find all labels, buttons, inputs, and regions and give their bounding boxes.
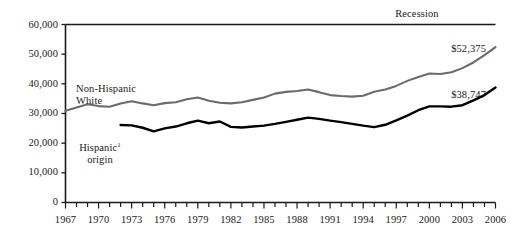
footnote-marker-1: 1 (117, 141, 121, 149)
recession-label: Recession (372, 8, 462, 19)
end-value-label-hispanic-origin: $38,747 (406, 89, 486, 100)
end-value-label-non-hispanic-white: $52,375 (406, 43, 486, 54)
series-label-hispanic-line2: origin (87, 154, 113, 165)
y-tick-label-0: 0 (2, 196, 58, 207)
x-tick-label-2006: 2006 (476, 214, 512, 225)
series-label-non-hispanic-white: Non-Hispanic White (76, 83, 136, 107)
series-label-white-line1: Non-Hispanic (76, 83, 136, 94)
series-label-hispanic-line1: Hispanic (79, 142, 117, 153)
y-tick-label-50000: 50,000 (2, 48, 58, 59)
y-tick-label-10000: 10,000 (2, 166, 58, 177)
y-tick-label-60000: 60,000 (2, 19, 58, 30)
x-axis-ticks (66, 203, 496, 209)
income-line-chart: 60,000 50,000 40,000 30,000 20,000 10,00… (0, 0, 512, 245)
y-tick-label-30000: 30,000 (2, 107, 58, 118)
y-tick-label-40000: 40,000 (2, 78, 58, 89)
series-label-hispanic-origin: Hispanic1 origin (62, 142, 138, 166)
series-label-white-line2: White (76, 95, 102, 106)
chart-canvas (0, 0, 512, 245)
y-tick-label-20000: 20,000 (2, 137, 58, 148)
